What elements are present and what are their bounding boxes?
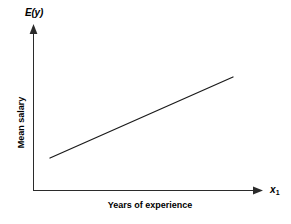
plot-canvas [0,0,291,224]
x-axis-symbol-base: x [270,184,276,195]
trend-line-mean-salary [50,77,233,158]
x-axis-symbol-subscript: 1 [276,189,280,196]
y-axis-title: Mean salary [17,85,26,161]
arrow-right-icon [253,187,263,195]
chart-figure: E(y) Mean salary Years of experience x1 [0,0,291,224]
x-axis-title: Years of experience [35,201,265,210]
arrow-up-icon [30,24,38,34]
x-axis-symbol-label: x1 [270,185,280,196]
y-axis-symbol-label: E(y) [25,8,43,18]
